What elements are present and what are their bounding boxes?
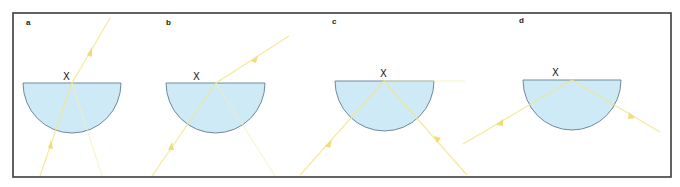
panel-label-b: b (166, 18, 171, 27)
panel-d: d X (463, 16, 660, 144)
arrow-icon (496, 119, 503, 126)
point-x-label: X (380, 68, 387, 79)
semicircular-glass-block (523, 80, 621, 130)
panel-label-c: c (332, 17, 337, 26)
semicircular-glass-block (335, 81, 434, 131)
semicircular-glass-block (23, 83, 121, 133)
point-x-label: X (63, 71, 70, 82)
panel-c: c X (300, 17, 467, 175)
arrow-icon (325, 140, 332, 148)
point-x-label: X (193, 71, 200, 82)
arrow-icon (628, 112, 635, 119)
semicircular-glass-block (166, 83, 265, 133)
point-x-label: X (552, 67, 559, 78)
panel-label-a: a (26, 18, 31, 27)
refracted-ray (216, 36, 289, 83)
panel-b: b X (152, 18, 289, 176)
panel-label-d: d (519, 16, 524, 25)
panel-a: a X (23, 18, 121, 176)
ray-diagram-figure: a X b X c X d X (0, 0, 680, 187)
